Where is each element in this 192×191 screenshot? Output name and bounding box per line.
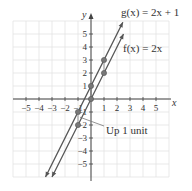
x-tick-label: 1 [102,103,107,113]
g-label: g(x) = 2x + 1 [121,6,179,19]
x-tick-label: −3 [47,103,57,113]
data-point [101,57,106,62]
y-axis-label: y [81,9,87,20]
data-point [88,96,93,101]
data-point [88,83,93,88]
x-tick-label: −2 [60,103,70,113]
data-point [75,109,80,114]
x-axis-label: x [171,97,177,108]
x-tick-label: 5 [154,103,159,113]
y-tick-label: −3 [77,133,87,143]
y-tick-label: 5 [83,29,88,39]
x-tick-label: 2 [115,103,120,113]
x-tick-label: −5 [21,103,31,113]
data-point [101,70,106,75]
x-tick-label: 4 [141,103,146,113]
y-tick-label: −5 [77,159,87,169]
x-tick-label: −4 [34,103,44,113]
coordinate-graph: −5−4−3−2−112345−5−4−3−2−112345 y x g(x) … [0,0,192,191]
y-tick-label: 4 [83,42,88,52]
f-label: f(x) = 2x [123,42,163,55]
y-tick-label: 2 [83,68,88,78]
y-tick-label: −4 [77,146,87,156]
data-point [75,122,80,127]
y-tick-label: 1 [83,81,88,91]
x-tick-label: 3 [128,103,133,113]
y-axis-arrow-icon [89,13,94,19]
shift-annotation: Up 1 unit [106,124,148,136]
y-tick-label: 3 [83,55,88,65]
